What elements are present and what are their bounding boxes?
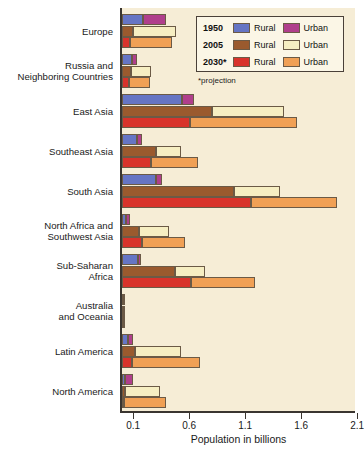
bar-2-2030 xyxy=(122,117,297,128)
legend-label-1950-urban: Urban xyxy=(304,23,329,33)
x-tick-0 xyxy=(133,413,134,419)
bar-segment-rural-8-2 xyxy=(122,357,132,368)
bar-segment-urban-6-2 xyxy=(191,277,255,288)
bar-4-2030 xyxy=(122,197,337,208)
legend-swatch-2005-rural xyxy=(233,40,250,50)
x-tick-4 xyxy=(357,413,358,419)
category-label-2: East Asia xyxy=(0,106,113,117)
bar-8-2030 xyxy=(122,357,200,368)
x-tick-label-4: 2.1 xyxy=(350,420,364,431)
bar-segment-urban-2-0 xyxy=(182,94,193,105)
bar-segment-urban-8-2 xyxy=(132,357,200,368)
x-tick-2 xyxy=(245,413,246,419)
bar-1-1950 xyxy=(122,54,137,65)
bar-segment-urban-6-0 xyxy=(138,254,141,265)
bar-segment-urban-9-2 xyxy=(124,397,165,408)
bar-4-1950 xyxy=(122,174,162,185)
bar-segment-urban-1-1 xyxy=(131,66,151,77)
bar-segment-urban-0-1 xyxy=(133,26,176,37)
bar-6-1950 xyxy=(122,254,141,265)
bar-segment-rural-1-0 xyxy=(122,54,132,65)
legend-row-2005: 2005 Rural Urban xyxy=(203,37,339,52)
bar-segment-urban-9-0 xyxy=(125,374,133,385)
category-label-6: Sub-Saharan Africa xyxy=(0,260,113,282)
x-tick-1 xyxy=(189,413,190,419)
legend-row-1950: 1950 Rural Urban xyxy=(203,20,339,35)
bar-9-2005 xyxy=(122,386,160,397)
bar-segment-urban-1-0 xyxy=(132,54,136,65)
bar-segment-rural-2-1 xyxy=(122,106,212,117)
bar-segment-rural-4-2 xyxy=(122,197,251,208)
bar-segment-urban-3-0 xyxy=(137,134,143,145)
x-axis-line xyxy=(120,411,355,413)
bar-segment-rural-5-2 xyxy=(122,237,142,248)
bar-5-1950 xyxy=(122,214,130,225)
legend-swatch-2030-rural xyxy=(233,57,250,67)
bar-segment-rural-6-2 xyxy=(122,277,191,288)
bar-segment-rural-0-2 xyxy=(122,37,130,48)
legend: 1950 Rural Urban 2005 Rural Urban 2030* … xyxy=(196,16,344,72)
legend-label-2030-urban: Urban xyxy=(304,57,329,67)
bar-segment-rural-1-2 xyxy=(122,77,129,88)
x-tick-label-3: 1.6 xyxy=(294,420,308,431)
bar-segment-urban-6-1 xyxy=(175,266,205,277)
bar-2-2005 xyxy=(122,106,284,117)
bar-segment-rural-0-0 xyxy=(122,14,143,25)
x-axis-title: Population in billions xyxy=(122,433,355,445)
bar-9-2030 xyxy=(122,397,166,408)
bar-segment-urban-3-2 xyxy=(151,157,198,168)
bar-segment-urban-1-2 xyxy=(129,77,150,88)
category-label-4: South Asia xyxy=(0,186,113,197)
legend-year-2005: 2005 xyxy=(203,40,233,50)
bar-segment-urban-7-2 xyxy=(123,317,125,328)
bar-segment-urban-4-0 xyxy=(156,174,163,185)
bar-segment-rural-8-1 xyxy=(122,346,135,357)
x-tick-label-0: 0.1 xyxy=(126,420,140,431)
bar-segment-rural-6-0 xyxy=(122,254,138,265)
bar-segment-urban-0-0 xyxy=(143,14,165,25)
category-label-1: Russia and Neighboring Countries xyxy=(0,60,113,82)
category-label-8: Latin America xyxy=(0,346,113,357)
legend-label-2030-rural: Rural xyxy=(254,57,276,67)
bar-segment-rural-5-1 xyxy=(122,226,139,237)
legend-swatch-1950-rural xyxy=(233,23,250,33)
bar-segment-rural-4-0 xyxy=(122,174,156,185)
bar-segment-urban-3-1 xyxy=(156,146,182,157)
x-tick-label-1: 0.6 xyxy=(182,420,196,431)
category-label-3: Southeast Asia xyxy=(0,146,113,157)
bar-segment-urban-7-1 xyxy=(123,306,125,317)
bar-segment-rural-1-1 xyxy=(122,66,131,77)
legend-swatch-2030-urban xyxy=(283,57,300,67)
bar-segment-urban-4-1 xyxy=(234,186,280,197)
projection-footnote: *projection xyxy=(198,76,236,85)
category-label-9: North America xyxy=(0,386,113,397)
bar-5-2005 xyxy=(122,226,169,237)
bar-segment-rural-2-0 xyxy=(122,94,182,105)
bar-segment-urban-8-1 xyxy=(135,346,181,357)
bar-segment-rural-4-1 xyxy=(122,186,234,197)
bar-8-1950 xyxy=(122,334,133,345)
bar-segment-urban-5-0 xyxy=(126,214,129,225)
bar-segment-rural-3-0 xyxy=(122,134,137,145)
bar-segment-rural-3-1 xyxy=(122,146,156,157)
legend-swatch-2005-urban xyxy=(283,40,300,50)
bar-7-2030 xyxy=(122,317,125,328)
bar-1-2005 xyxy=(122,66,151,77)
x-tick-label-2: 1.1 xyxy=(238,420,252,431)
bar-0-2005 xyxy=(122,26,176,37)
bar-segment-urban-8-0 xyxy=(128,334,134,345)
bar-0-1950 xyxy=(122,14,166,25)
bar-0-2030 xyxy=(122,37,172,48)
legend-label-2005-urban: Urban xyxy=(304,40,329,50)
legend-swatch-1950-urban xyxy=(283,23,300,33)
bar-6-2005 xyxy=(122,266,205,277)
bar-7-1950 xyxy=(122,294,124,305)
bar-segment-rural-2-2 xyxy=(122,117,190,128)
legend-year-2030: 2030* xyxy=(203,57,233,67)
category-label-7: Australia and Oceania xyxy=(0,300,113,322)
bar-8-2005 xyxy=(122,346,181,357)
bar-segment-urban-2-2 xyxy=(190,117,296,128)
bar-7-2005 xyxy=(122,306,125,317)
bar-segment-rural-0-1 xyxy=(122,26,133,37)
